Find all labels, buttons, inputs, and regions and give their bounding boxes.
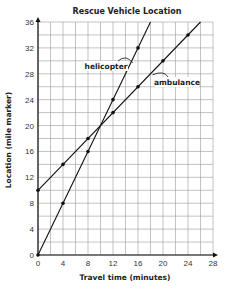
y-axis-arrow-icon: [36, 17, 41, 22]
y-tick-label: 8: [30, 199, 35, 208]
helicopter-point: [86, 150, 90, 154]
y-tick-label: 12: [25, 173, 34, 182]
ambulance-arrow-icon: [153, 73, 169, 77]
y-tick-label: 32: [25, 44, 34, 53]
x-tick-label: 16: [134, 259, 143, 268]
helicopter-point: [61, 201, 65, 205]
x-tick-label: 0: [36, 259, 41, 268]
x-tick-label: 12: [109, 259, 118, 268]
y-tick-label: 36: [25, 18, 34, 27]
y-tick-label: 0: [30, 251, 35, 260]
ambulance-point: [111, 111, 115, 115]
x-tick-label: 20: [159, 259, 168, 268]
helicopter-point: [36, 253, 40, 257]
x-axis-arrow-icon: [213, 253, 218, 258]
x-tick-label: 24: [184, 259, 193, 268]
x-tick-label: 8: [86, 259, 91, 268]
helicopter-point: [111, 98, 115, 102]
y-tick-label: 16: [25, 147, 34, 156]
tick-labels: 048121620242804812162024283236: [25, 18, 218, 268]
y-axis-label: Location (mile marker): [4, 92, 13, 188]
x-tick-label: 28: [209, 259, 218, 268]
helicopter-label: helicopter: [85, 62, 128, 71]
chart-title: Rescue Vehicle Location: [73, 7, 182, 16]
helicopter-point: [136, 46, 140, 50]
x-axis-label: Travel time (minutes): [80, 273, 171, 282]
ambulance-point: [36, 188, 40, 192]
x-tick-label: 4: [61, 259, 66, 268]
line-chart: Rescue Vehicle Location 0481216202428048…: [0, 0, 228, 291]
ambulance-point: [136, 85, 140, 89]
y-tick-label: 4: [30, 225, 35, 234]
grid: [38, 22, 213, 255]
y-tick-label: 20: [25, 122, 34, 131]
ambulance-point: [161, 59, 165, 63]
ambulance-point: [86, 137, 90, 141]
ambulance-point: [61, 163, 65, 167]
series-lines: [36, 22, 200, 257]
ambulance-label: ambulance: [154, 78, 200, 87]
ambulance-point: [186, 33, 190, 37]
y-tick-label: 28: [25, 70, 34, 79]
y-tick-label: 24: [25, 96, 34, 105]
